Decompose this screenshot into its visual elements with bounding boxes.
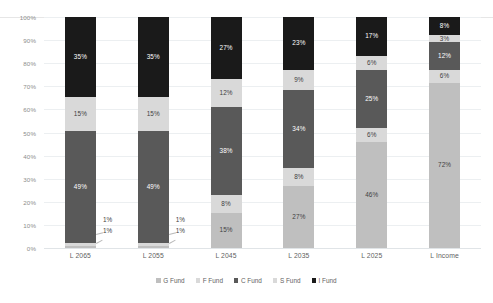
legend-label: I Fund [319, 277, 337, 284]
bar-segment-value-label: 12% [438, 53, 451, 59]
bar-segment-value-label: 34% [292, 126, 305, 132]
bar-segment-value-label: 23% [292, 40, 305, 46]
stacked-bar[interactable]: 46%6%25%6%17% [356, 17, 387, 248]
stacked-bar[interactable]: 27%8%34%9%23% [283, 17, 314, 248]
bar-segment-s-fund[interactable]: 3% [429, 35, 460, 42]
bar-segment-i-fund[interactable]: 8% [429, 17, 460, 35]
x-axis-category-label: L 2065 [44, 252, 116, 266]
legend-item-c-fund[interactable]: C Fund [234, 277, 262, 284]
legend-label: G Fund [163, 277, 184, 284]
legend-item-s-fund[interactable]: S Fund [273, 277, 301, 284]
bar-segment-c-fund[interactable]: 38% [211, 107, 242, 195]
bar-segment-i-fund[interactable]: 27% [211, 17, 242, 79]
bar-segment-value-label: 3% [440, 36, 449, 42]
stacked-bar[interactable]: 1%1%1%1%49%15%35% [138, 17, 169, 248]
y-axis-tick-label: 70% [23, 83, 36, 90]
y-axis-tick-label: 10% [23, 221, 36, 228]
bar-segment-value-label: 27% [220, 45, 233, 51]
bar-segment-value-label: 25% [365, 96, 378, 102]
bar-segment-i-fund[interactable]: 35% [65, 17, 96, 97]
y-axis-tick-label: 20% [23, 198, 36, 205]
bar-segment-g-fund[interactable]: 1% [65, 246, 96, 248]
bar-segment-callout-label: 1% [103, 216, 112, 223]
y-axis-tick-label: 90% [23, 37, 36, 44]
x-axis-category-label: L 2055 [117, 252, 189, 266]
y-axis-tick-label: 30% [23, 175, 36, 182]
bar-column[interactable]: 1%1%1%1%49%15%35% [44, 17, 116, 248]
bar-segment-c-fund[interactable]: 49% [65, 131, 96, 243]
bar-segment-i-fund[interactable]: 23% [283, 17, 314, 70]
bar-segment-value-label: 6% [440, 73, 449, 79]
bar-segment-c-fund[interactable]: 49% [138, 131, 169, 243]
bar-segment-c-fund[interactable]: 12% [429, 42, 460, 69]
bar-segment-g-fund[interactable]: 27% [283, 186, 314, 248]
stacked-bar-chart: 0%10%20%30%40%50%60%70%80%90%100% 1%1%1%… [0, 0, 493, 303]
bar-segment-s-fund[interactable]: 12% [211, 79, 242, 107]
bar-segment-f-fund[interactable]: 8% [211, 195, 242, 213]
bar-segment-value-label: 15% [74, 111, 87, 117]
bar-segment-value-label: 35% [147, 54, 160, 60]
bar-segment-value-label: 8% [440, 23, 449, 29]
bar-segment-s-fund[interactable]: 6% [356, 56, 387, 70]
stacked-bar[interactable]: 72%6%12%3%8% [429, 17, 460, 248]
legend-label: C Fund [241, 277, 262, 284]
bar-segment-value-label: 17% [365, 33, 378, 39]
bar-segment-f-fund[interactable]: 8% [283, 168, 314, 186]
bar-segment-g-fund[interactable]: 72% [429, 83, 460, 248]
legend-swatch-icon [312, 278, 317, 283]
chart-legend: G FundF FundC FundS FundI Fund [0, 277, 493, 284]
bar-segment-value-label: 46% [365, 192, 378, 198]
x-axis-labels: L 2065L 2055L 2045L 2035L 2025L Income [44, 252, 481, 266]
bar-segment-i-fund[interactable]: 17% [356, 17, 387, 56]
bar-segment-value-label: 8% [294, 174, 303, 180]
bar-segment-f-fund[interactable]: 6% [429, 70, 460, 84]
legend-label: S Fund [280, 277, 301, 284]
bar-column[interactable]: 27%8%34%9%23% [263, 17, 335, 248]
bar-segment-value-label: 6% [367, 132, 376, 138]
y-axis-tick-label: 0% [27, 245, 36, 252]
legend-swatch-icon [196, 278, 201, 283]
bar-segment-c-fund[interactable]: 34% [283, 90, 314, 168]
legend-item-f-fund[interactable]: F Fund [196, 277, 223, 284]
bar-segment-s-fund[interactable]: 15% [65, 97, 96, 131]
legend-swatch-icon [234, 278, 239, 283]
bar-segment-value-label: 15% [147, 111, 160, 117]
y-axis-tick-label: 80% [23, 60, 36, 67]
bar-segment-s-fund[interactable]: 9% [283, 70, 314, 91]
y-axis-tick-label: 50% [23, 129, 36, 136]
bar-segment-g-fund[interactable]: 15% [211, 213, 242, 248]
x-axis-category-label: L Income [409, 252, 481, 266]
x-axis-category-label: L 2045 [190, 252, 262, 266]
gridline [44, 248, 481, 249]
bar-segment-value-label: 27% [292, 214, 305, 220]
bar-segment-callout-label: 1% [103, 227, 112, 234]
bar-segment-s-fund[interactable]: 15% [138, 97, 169, 131]
callout-leader-line [169, 240, 176, 244]
bar-group: 1%1%1%1%49%15%35%1%1%1%1%49%15%35%15%8%3… [44, 17, 481, 248]
bar-segment-callout-label: 1% [176, 216, 185, 223]
bar-segment-f-fund[interactable]: 6% [356, 128, 387, 142]
stacked-bar[interactable]: 15%8%38%12%27% [211, 17, 242, 248]
bar-segment-callout-label: 1% [176, 227, 185, 234]
bar-segment-g-fund[interactable]: 1% [138, 246, 169, 248]
callout-leader-line [96, 240, 103, 244]
y-axis-labels: 0%10%20%30%40%50%60%70%80%90%100% [0, 17, 40, 248]
bar-segment-i-fund[interactable]: 35% [138, 17, 169, 97]
bar-segment-value-label: 12% [220, 90, 233, 96]
bar-column[interactable]: 15%8%38%12%27% [190, 17, 262, 248]
bar-column[interactable]: 46%6%25%6%17% [336, 17, 408, 248]
bar-segment-value-label: 15% [220, 227, 233, 233]
bar-segment-f-fund[interactable]: 1% [138, 243, 169, 245]
plot-area: 1%1%1%1%49%15%35%1%1%1%1%49%15%35%15%8%3… [44, 17, 481, 248]
bar-segment-g-fund[interactable]: 46% [356, 142, 387, 248]
bar-segment-value-label: 49% [74, 184, 87, 190]
bar-segment-c-fund[interactable]: 25% [356, 70, 387, 128]
legend-item-i-fund[interactable]: I Fund [312, 277, 337, 284]
stacked-bar[interactable]: 1%1%1%1%49%15%35% [65, 17, 96, 248]
bar-column[interactable]: 1%1%1%1%49%15%35% [117, 17, 189, 248]
bar-column[interactable]: 72%6%12%3%8% [409, 17, 481, 248]
legend-label: F Fund [203, 277, 223, 284]
bar-segment-f-fund[interactable]: 1% [65, 243, 96, 245]
bar-segment-value-label: 8% [221, 201, 230, 207]
legend-item-g-fund[interactable]: G Fund [156, 277, 184, 284]
